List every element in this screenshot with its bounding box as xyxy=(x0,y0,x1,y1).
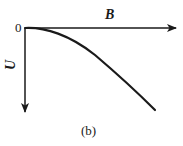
x-axis-label: B xyxy=(105,8,114,22)
y-axis-label: U xyxy=(4,60,18,70)
figure-caption: (b) xyxy=(81,124,96,137)
u-vs-b-curve xyxy=(25,28,155,110)
figure-b: 0 B U (b) xyxy=(0,0,183,146)
origin-label: 0 xyxy=(15,21,22,34)
